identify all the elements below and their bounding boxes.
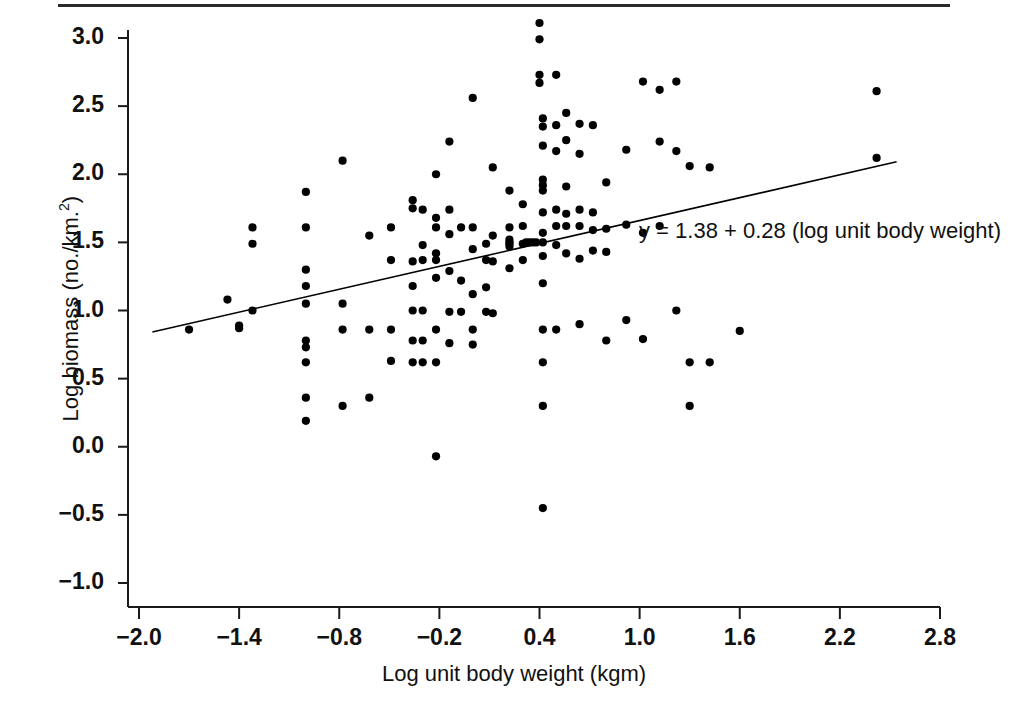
scatter-point (602, 178, 610, 186)
scatter-point (575, 120, 583, 128)
scatter-point (562, 136, 570, 144)
x-axis-ticks (139, 607, 940, 619)
x-tick-label: −1.4 (184, 624, 294, 651)
scatter-point (672, 78, 680, 86)
scatter-point (248, 240, 256, 248)
scatter-point (387, 256, 395, 264)
x-tick-label: 1.6 (685, 624, 795, 651)
axis-lines (128, 30, 940, 607)
scatter-point (419, 256, 427, 264)
scatter-point (706, 163, 714, 171)
scatter-point (469, 223, 477, 231)
scatter-point (552, 206, 560, 214)
scatter-point (552, 147, 560, 155)
scatter-point (432, 223, 440, 231)
scatter-point (302, 188, 310, 196)
scatter-point (489, 309, 497, 317)
scatter-point (552, 222, 560, 230)
scatter-point (469, 94, 477, 102)
scatter-point (338, 157, 346, 165)
scatter-point (622, 146, 630, 154)
scatter-point (575, 150, 583, 158)
scatter-point (489, 257, 497, 265)
scatter-point (539, 325, 547, 333)
scatter-point (419, 336, 427, 344)
scatter-point (302, 282, 310, 290)
scatter-point (409, 257, 417, 265)
scatter-point (589, 208, 597, 216)
scatter-point (539, 402, 547, 410)
data-points (185, 19, 881, 512)
scatter-point (686, 162, 694, 170)
scatter-point (409, 358, 417, 366)
scatter-point (365, 394, 373, 402)
scatter-point (482, 240, 490, 248)
scatter-point (602, 248, 610, 256)
scatter-point (445, 308, 453, 316)
scatter-point (338, 402, 346, 410)
scatter-point (409, 282, 417, 290)
scatter-point (338, 325, 346, 333)
x-tick-label: 2.2 (785, 624, 895, 651)
scatter-point (432, 170, 440, 178)
scatter-point (505, 187, 513, 195)
scatter-point (387, 223, 395, 231)
scatter-point (387, 325, 395, 333)
scatter-point (535, 19, 543, 27)
scatter-point (535, 35, 543, 43)
scatter-point (419, 241, 427, 249)
scatter-point (672, 306, 680, 314)
scatter-point (482, 283, 490, 291)
scatter-point (302, 358, 310, 366)
y-tick-label: −1.0 (18, 568, 104, 595)
scatter-point (535, 71, 543, 79)
scatter-point (589, 121, 597, 129)
scatter-point (302, 223, 310, 231)
regression-equation-label: y = 1.38 + 0.28 (log unit body weight) (639, 218, 1001, 244)
scatter-point (432, 358, 440, 366)
scatter-point (469, 325, 477, 333)
scatter-point (489, 163, 497, 171)
scatter-point (302, 417, 310, 425)
x-axis-title: Log unit body weight (kgm) (0, 661, 1028, 687)
scatter-point (432, 256, 440, 264)
scatter-point (302, 300, 310, 308)
scatter-point (445, 339, 453, 347)
scatter-point (457, 276, 465, 284)
scatter-point (432, 452, 440, 460)
scatter-point (302, 394, 310, 402)
scatter-point (552, 121, 560, 129)
figure-container: −1.0−0.50.00.51.01.52.02.53.0 −2.0−1.4−0… (0, 0, 1028, 719)
scatter-point (457, 223, 465, 231)
scatter-point (445, 267, 453, 275)
scatter-point (419, 306, 427, 314)
scatter-point (539, 238, 547, 246)
scatter-point (409, 306, 417, 314)
scatter-point (539, 229, 547, 237)
scatter-point (409, 336, 417, 344)
scatter-point (539, 504, 547, 512)
scatter-point (235, 321, 243, 329)
scatter-point (562, 210, 570, 218)
scatter-point (302, 343, 310, 351)
x-tick-label: 0.4 (485, 624, 595, 651)
scatter-point (656, 86, 664, 94)
scatter-point (706, 358, 714, 366)
scatter-point (445, 230, 453, 238)
scatter-point (469, 290, 477, 298)
scatter-point (872, 87, 880, 95)
scatter-point (469, 245, 477, 253)
scatter-point (539, 252, 547, 260)
scatter-point (489, 231, 497, 239)
scatter-point (552, 325, 560, 333)
scatter-point (562, 249, 570, 257)
scatter-point (622, 221, 630, 229)
scatter-point (552, 241, 560, 249)
scatter-point (589, 246, 597, 254)
scatter-point (185, 325, 193, 333)
scatter-point (505, 242, 513, 250)
scatter-point (602, 336, 610, 344)
scatter-point (602, 225, 610, 233)
scatter-point (409, 204, 417, 212)
scatter-point (535, 79, 543, 87)
